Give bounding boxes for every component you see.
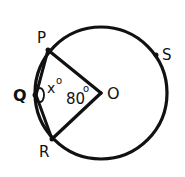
label-s: S [162,46,172,64]
angle-label-x-degree: o [56,75,62,86]
point-p [46,48,51,53]
label-q: Q [13,86,27,105]
angle-label-x: x [47,80,55,96]
point-r [50,137,55,142]
label-o: O [107,84,120,103]
radius-op [48,50,101,93]
point-o [100,92,103,95]
label-r: R [39,143,49,161]
angle-label-80-degree: o [83,83,89,94]
point-q [33,93,38,98]
circle-geometry-diagram: P Q R S O x o 80 o [0,0,185,177]
label-p: P [37,29,46,47]
point-s [154,53,159,58]
